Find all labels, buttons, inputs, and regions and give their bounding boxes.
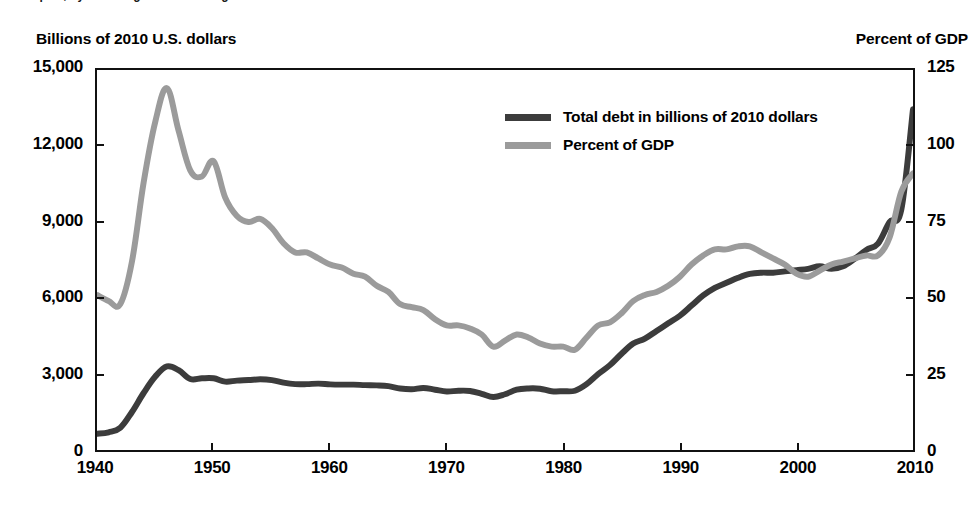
legend-item-label: Percent of GDP [563, 136, 674, 154]
right-axis-tick [906, 144, 915, 146]
left-axis-tick [95, 297, 104, 299]
chart-legend: Total debt in billions of 2010 dollarsPe… [505, 103, 875, 159]
bottom-axis-tick-label: 1940 [55, 458, 135, 478]
bottom-axis-tick-label: 1950 [172, 458, 252, 478]
bottom-axis-tick [211, 443, 213, 452]
bottom-axis-tick-label: 1970 [406, 458, 486, 478]
legend-item-label: Total debt in billions of 2010 dollars [563, 108, 818, 126]
right-axis-tick [906, 297, 915, 299]
right-axis-tick-label: 50 [927, 287, 945, 307]
right-axis-tick [906, 221, 915, 223]
bottom-axis-tick-label: 1990 [641, 458, 721, 478]
left-axis-tick-label: 15,000 [0, 57, 83, 77]
bottom-axis-tick [680, 443, 682, 452]
left-axis-tick [95, 374, 104, 376]
left-axis-tick-label: 9,000 [0, 211, 83, 231]
right-axis-tick-label: 75 [927, 211, 945, 231]
bottom-axis-tick [563, 443, 565, 452]
right-axis-tick-label: 125 [927, 57, 954, 77]
legend-item: Total debt in billions of 2010 dollars [505, 103, 875, 131]
left-axis-tick-label: 12,000 [0, 134, 83, 154]
left-axis-tick [95, 221, 104, 223]
left-axis-tick [95, 144, 104, 146]
bottom-axis-tick-label: 1960 [289, 458, 369, 478]
bottom-axis-tick-label: 2010 [875, 458, 955, 478]
left-axis-tick-label: 6,000 [0, 287, 83, 307]
legend-line-swatch-icon [505, 142, 551, 149]
bottom-axis-tick [797, 443, 799, 452]
legend-item: Percent of GDP [505, 131, 875, 159]
cropped-caption-text: report, by the Congressional Budget Offi… [28, 0, 588, 2]
bottom-axis-tick [328, 443, 330, 452]
left-axis-header: Billions of 2010 U.S. dollars [36, 30, 236, 48]
left-axis-tick-label: 3,000 [0, 364, 83, 384]
right-axis-tick-label: 100 [927, 134, 954, 154]
bottom-axis-tick-label: 2000 [758, 458, 838, 478]
bottom-axis-tick [445, 443, 447, 452]
bottom-axis-tick-label: 1980 [524, 458, 604, 478]
right-axis-tick-label: 25 [927, 364, 945, 384]
right-axis-header: Percent of GDP [856, 30, 968, 48]
right-axis-tick [906, 374, 915, 376]
chart-figure: report, by the Congressional Budget Offi… [0, 0, 974, 518]
legend-line-swatch-icon [505, 114, 551, 121]
